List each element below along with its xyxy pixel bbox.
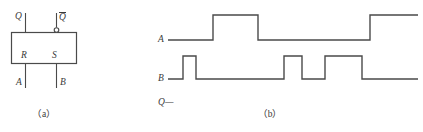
waveform-b-trace <box>168 56 418 79</box>
waveform-q-dash: — <box>165 97 173 107</box>
label-r-input: R <box>21 51 27 61</box>
panel-a-schematic: Q Q R S A B （a） <box>0 0 140 132</box>
label-q-output: Q <box>15 12 22 22</box>
waveform-label-q: Q— <box>158 98 173 108</box>
label-a-input: A <box>16 78 22 88</box>
label-s-input: S <box>52 51 57 61</box>
label-b-input: B <box>60 78 66 88</box>
label-qbar-output: Q <box>59 12 66 23</box>
inversion-bubble-icon <box>54 28 59 33</box>
caption-panel-a: （a） <box>0 110 88 120</box>
figure-root: Q Q R S A B （a） A B Q— （b） <box>0 0 423 132</box>
waveform-a-trace <box>168 15 418 40</box>
panel-b-timing-diagram: A B Q— （b） <box>140 0 423 132</box>
waveform-label-a: A <box>158 35 164 45</box>
waveform-label-b: B <box>158 74 164 84</box>
caption-panel-b: （b） <box>230 110 310 120</box>
waveform-label-q-text: Q <box>158 97 165 107</box>
